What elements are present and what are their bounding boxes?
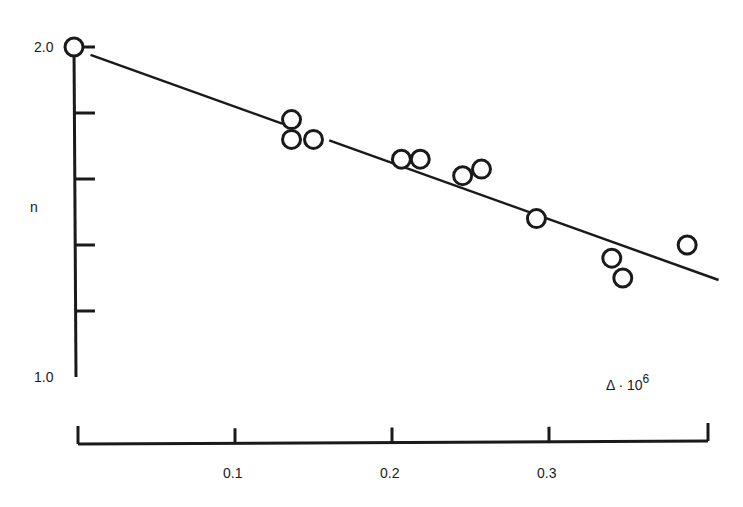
data-point <box>305 130 323 148</box>
data-point <box>283 130 301 148</box>
x-tick-label: 0.2 <box>380 465 400 481</box>
data-point <box>678 236 696 254</box>
fit-line-segment <box>329 140 718 280</box>
x-axis: 0.10.20.3 <box>78 423 708 481</box>
data-point <box>392 150 410 168</box>
x-tick-label: 0.1 <box>223 465 243 481</box>
data-point <box>411 150 429 168</box>
data-point <box>527 210 545 228</box>
data-point <box>454 167 472 185</box>
data-point <box>472 160 490 178</box>
x-tick-label: 0.3 <box>537 465 557 481</box>
y-tick-label: 2.0 <box>34 39 54 55</box>
data-point <box>65 38 83 56</box>
y-tick-label: 1.0 <box>34 369 54 385</box>
scatter-chart: 1.02.0 0.10.20.3 n Δ · 106 <box>0 0 743 507</box>
x-axis-label-base: Δ · 10 <box>606 377 643 393</box>
y-axis-line <box>74 47 76 377</box>
x-axis-label-superscript: 6 <box>643 372 650 386</box>
data-point <box>283 111 301 129</box>
y-axis: 1.02.0 <box>34 39 95 385</box>
data-point <box>603 249 621 267</box>
data-point <box>614 269 632 287</box>
x-axis-label: Δ · 106 <box>606 372 650 393</box>
fit-line-segment <box>91 55 283 124</box>
y-axis-label: n <box>30 199 38 215</box>
data-points <box>65 38 696 287</box>
